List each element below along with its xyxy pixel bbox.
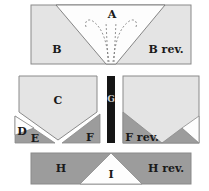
g-bar: G <box>107 76 115 143</box>
top-panel: A B B rev. <box>31 5 191 64</box>
label-e: E <box>31 132 39 145</box>
label-f-rev: F rev. <box>125 131 159 144</box>
label-b-rev: B rev. <box>148 43 183 56</box>
pattern-diagram: A B B rev. C D E F G F rev. H I H rev. <box>0 0 209 191</box>
piece-g <box>107 76 115 143</box>
label-g: G <box>107 94 115 104</box>
label-i: I <box>108 168 113 181</box>
label-d: D <box>17 125 27 138</box>
label-a: A <box>107 8 117 21</box>
label-b: B <box>52 43 61 56</box>
label-h-rev: H rev. <box>148 162 184 175</box>
middle-right-panel: F rev. <box>123 76 199 144</box>
bottom-panel: H I H rev. <box>31 153 191 184</box>
label-f: F <box>86 131 94 144</box>
label-c: C <box>54 94 63 107</box>
middle-left-panel: C D E F <box>15 76 100 145</box>
label-h: H <box>56 162 66 175</box>
